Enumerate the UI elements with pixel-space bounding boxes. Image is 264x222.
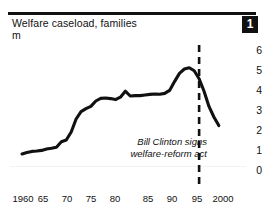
x-axis-tick-1985: 85 <box>138 194 158 204</box>
y-axis-tick-0: 0 <box>248 165 262 175</box>
y-axis-tick-5: 5 <box>248 65 262 75</box>
x-axis-tick-2000: 2000 <box>208 194 238 204</box>
x-axis-tick-1990: 90 <box>162 194 182 204</box>
event-annotation: Bill Clinton signs welfare-reform act <box>95 136 207 159</box>
x-axis-tick-1970: 70 <box>57 194 77 204</box>
chart-figure: 1 Welfare caseload, families m 6 5 4 3 2… <box>0 0 264 222</box>
line-chart-plot <box>0 0 264 222</box>
y-axis-tick-1: 1 <box>248 145 262 155</box>
y-axis-tick-6: 6 <box>248 45 262 55</box>
x-axis-tick-1995: 95 <box>187 194 207 204</box>
x-axis-tick-1965: 65 <box>33 194 53 204</box>
annotation-line-1: Bill Clinton signs <box>95 136 207 148</box>
y-axis-tick-4: 4 <box>248 85 262 95</box>
y-axis-tick-2: 2 <box>248 125 262 135</box>
x-axis-tick-1975: 75 <box>81 194 101 204</box>
annotation-line-2: welfare-reform act <box>95 148 207 160</box>
x-axis-tick-1980: 80 <box>105 194 125 204</box>
y-axis-tick-3: 3 <box>248 105 262 115</box>
